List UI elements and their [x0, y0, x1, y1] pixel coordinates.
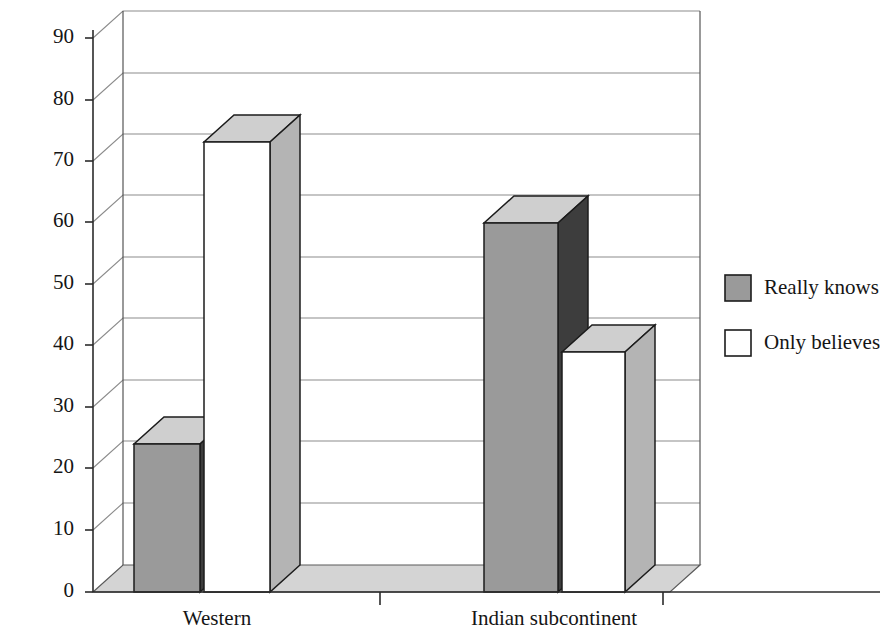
bar-side-face [270, 115, 300, 592]
x-axis-ticks [380, 592, 663, 605]
y-tick-label-30: 30 [53, 393, 74, 417]
x-axis-category-labels: Western Indian subcontinent [183, 606, 637, 630]
bar-front-face [484, 223, 558, 592]
y-axis-tick-labels: 90 80 70 60 50 40 30 20 10 0 [53, 24, 74, 602]
bar-western-only-believes[interactable] [204, 115, 300, 592]
legend-swatch-only-believes [725, 330, 751, 356]
bar-front-face [134, 444, 200, 592]
legend-label-only-believes: Only believes [764, 330, 880, 354]
bar-chart-3d: 90 80 70 60 50 40 30 20 10 0 Western Ind… [0, 0, 880, 638]
x-category-label-western: Western [183, 606, 252, 630]
bar-front-face [204, 142, 270, 592]
y-tick-label-90: 90 [53, 24, 74, 48]
legend-label-really-knows: Really knows [764, 275, 879, 299]
y-tick-label-80: 80 [53, 86, 74, 110]
y-tick-label-50: 50 [53, 270, 74, 294]
y-axis-ticks [85, 38, 93, 592]
legend-swatch-really-knows [725, 275, 751, 301]
y-tick-label-0: 0 [64, 578, 75, 602]
chart-container: 90 80 70 60 50 40 30 20 10 0 Western Ind… [0, 0, 880, 638]
bar-indian-subcontinent-only-believes[interactable] [562, 325, 655, 592]
y-tick-label-10: 10 [53, 516, 74, 540]
legend-entry-only-believes[interactable]: Only believes [725, 330, 880, 356]
y-tick-label-70: 70 [53, 147, 74, 171]
bar-side-face [625, 325, 655, 592]
y-tick-label-20: 20 [53, 454, 74, 478]
legend: Really knows Only believes [725, 275, 880, 356]
legend-entry-really-knows[interactable]: Really knows [725, 275, 879, 301]
x-category-label-indian-subcontinent: Indian subcontinent [471, 606, 637, 630]
y-tick-label-60: 60 [53, 208, 74, 232]
y-tick-label-40: 40 [53, 331, 74, 355]
bar-front-face [562, 352, 625, 592]
